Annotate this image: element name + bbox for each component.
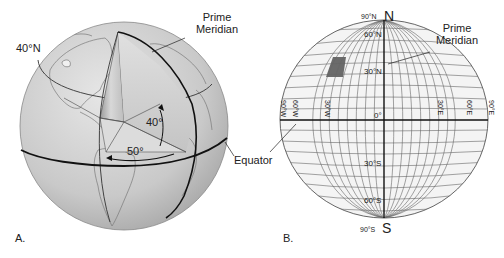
latitude-longitude-figure: 40°N Prime Meridian 40° 50° Equator A. 9… bbox=[0, 0, 504, 258]
label-90w: 90°W bbox=[280, 100, 287, 117]
label-0deg: 0° bbox=[374, 111, 382, 120]
label-90e: 90°E bbox=[488, 100, 495, 115]
label-40n: 40°N bbox=[16, 42, 41, 54]
label-prime-meridian-b-line2: Meridian bbox=[426, 34, 488, 46]
label-90n: 90°N bbox=[361, 13, 377, 20]
label-south: S bbox=[382, 220, 391, 236]
label-30s: 30°S bbox=[364, 159, 381, 168]
equator-leader-a bbox=[225, 142, 234, 156]
panel-label-a: A. bbox=[15, 232, 25, 244]
label-angle-40: 40° bbox=[146, 116, 163, 128]
label-60s: 60°S bbox=[364, 196, 381, 205]
globe-a bbox=[20, 22, 234, 230]
label-north: N bbox=[384, 8, 394, 24]
label-90s: 90°S bbox=[360, 226, 375, 233]
label-angle-50: 50° bbox=[127, 145, 144, 157]
label-30w: 30°W bbox=[324, 100, 331, 117]
label-30n: 30°N bbox=[364, 67, 382, 76]
label-prime-meridian-a-line1: Prime bbox=[186, 11, 248, 23]
label-60n: 60°N bbox=[364, 30, 382, 39]
panel-label-b: B. bbox=[283, 232, 293, 244]
label-prime-meridian-a-line2: Meridian bbox=[186, 23, 248, 35]
label-30e: 30°E bbox=[437, 100, 444, 115]
label-prime-meridian-b-line1: Prime bbox=[426, 22, 488, 34]
label-60w: 60°W bbox=[292, 100, 299, 117]
label-equator: Equator bbox=[234, 154, 273, 166]
label-60e: 60°E bbox=[466, 100, 473, 115]
